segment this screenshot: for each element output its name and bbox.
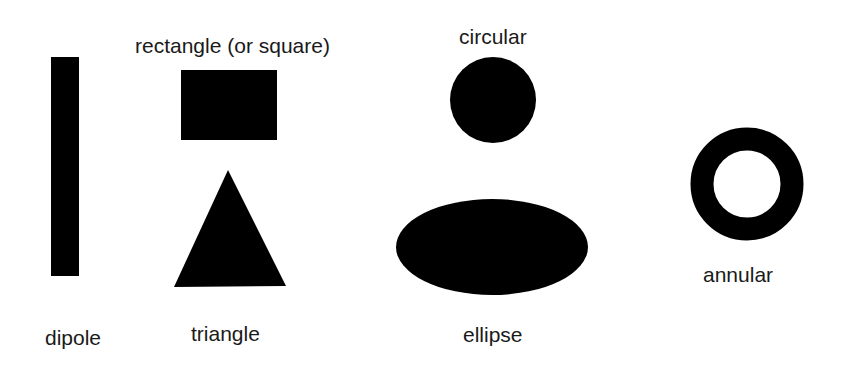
label-circular: circular [459, 26, 527, 47]
label-annular: annular [703, 264, 773, 285]
dipole-shape [51, 57, 79, 276]
label-rectangle: rectangle (or square) [135, 35, 330, 56]
ellipse-shape [396, 199, 588, 295]
annulus-shape [702, 139, 792, 229]
shapes-canvas [0, 0, 841, 368]
rectangle-shape [181, 70, 277, 140]
circle-shape [450, 57, 536, 143]
label-triangle: triangle [191, 323, 260, 344]
triangle-shape [174, 170, 286, 287]
label-dipole: dipole [45, 327, 101, 348]
label-ellipse: ellipse [463, 324, 523, 345]
